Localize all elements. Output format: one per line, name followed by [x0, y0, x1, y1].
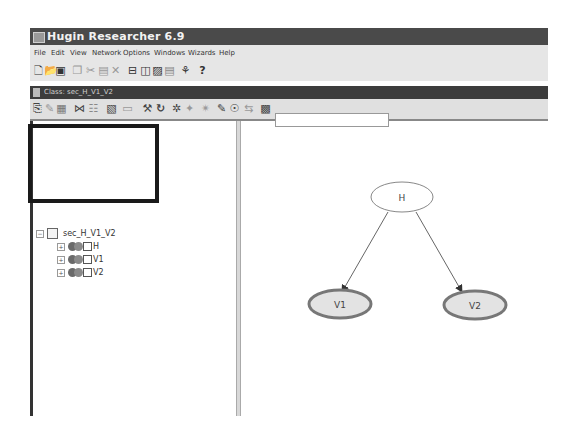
graph-node-label: V2: [469, 301, 481, 311]
graph-node-v1[interactable]: V1: [309, 290, 371, 318]
network-graph: H V1 V2: [0, 0, 575, 431]
graph-node-v2[interactable]: V2: [444, 291, 506, 319]
edge-h-v1[interactable]: [342, 212, 388, 292]
graph-node-label: V1: [334, 300, 346, 310]
edge-h-v2[interactable]: [416, 212, 462, 292]
graph-node-h[interactable]: H: [371, 182, 433, 212]
graph-node-label: H: [399, 193, 406, 203]
